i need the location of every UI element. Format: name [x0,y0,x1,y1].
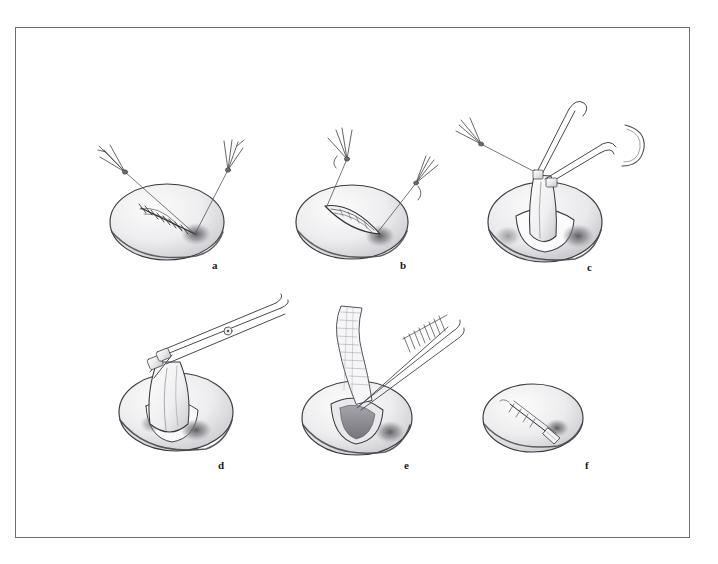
panel-c-illustration [456,101,644,262]
shadow-patch-c2 [495,226,521,246]
panel-f-illustration [483,384,583,452]
forceps-right-a [224,140,244,172]
clamp-jaw-box2-c [546,178,557,187]
shadow-patch-c [562,224,594,248]
clamp-jaw-box-c [533,170,543,179]
panel-label-f: f [585,460,589,471]
panel-d-illustration [119,294,288,451]
panel-label-e: e [404,460,409,471]
shadow-patch-a [181,223,211,245]
curved-needle-inner-c [624,129,640,162]
suture-thread-left-c [481,144,535,172]
elevated-tissue-flap-d [149,362,189,432]
forceps-left-a [98,145,128,174]
panel-label-d: d [218,460,224,471]
forceps-upper-left-b [328,128,352,168]
panel-label-b: b [400,260,406,271]
hemostat-clamp-c [533,101,616,187]
figure-root: a b c d e f [0,0,718,564]
surgical-illustration-canvas [0,0,718,564]
panel-b-illustration [296,128,438,259]
panel-e-illustration [302,306,464,455]
forceps-left-c [456,118,484,146]
forceps-right-b [414,156,438,200]
panel-label-c: c [587,262,592,273]
panel-label-a: a [212,260,218,271]
panel-a-illustration [98,140,244,260]
tissue-oval-a [110,184,224,260]
